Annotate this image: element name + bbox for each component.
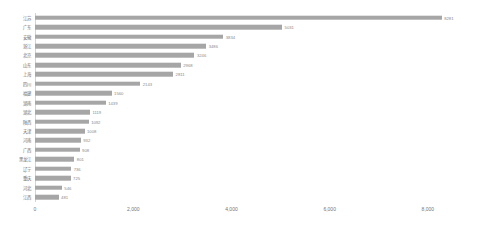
bar-value-label: 5031 (282, 25, 294, 30)
bar (35, 185, 62, 190)
bar-row: 山东2968 (35, 60, 477, 69)
bar-row: 广西908 (35, 145, 477, 154)
bar-row: 河南932 (35, 136, 477, 145)
bar-value-label: 3486 (206, 44, 218, 49)
bar-row: 辽宁736 (35, 164, 477, 173)
bar (35, 166, 71, 171)
bar (35, 25, 282, 30)
bar (35, 100, 106, 105)
category-label: 江苏 (23, 15, 31, 20)
bar-row: 北京3246 (35, 51, 477, 60)
category-label: 山东 (23, 62, 31, 67)
bar-row: 四川2143 (35, 79, 477, 88)
bar-value-label: 1092 (89, 119, 101, 124)
bar-row: 黑龙江801 (35, 155, 477, 164)
bar-value-label: 546 (62, 185, 72, 190)
category-label: 辽宁 (23, 166, 31, 171)
bar-row: 上海2811 (35, 70, 477, 79)
bar-value-label: 2811 (173, 72, 185, 77)
bar-row: 江西481 (35, 192, 477, 201)
bar (35, 34, 223, 39)
bar (35, 81, 140, 86)
x-tick-label: 2,000 (127, 206, 140, 212)
bar-row: 湖南1439 (35, 98, 477, 107)
bar (35, 119, 89, 124)
bar-value-label: 1119 (90, 110, 101, 115)
bar (35, 195, 59, 200)
category-label: 上海 (23, 72, 31, 77)
bar (35, 129, 85, 134)
bar-value-label: 1439 (106, 100, 118, 105)
category-label: 北京 (23, 53, 31, 58)
category-label: 广东 (23, 25, 31, 30)
category-label: 湖北 (23, 110, 31, 115)
category-label: 天津 (23, 128, 31, 133)
bar-row: 福建1560 (35, 89, 477, 98)
category-label: 江西 (23, 195, 31, 200)
bar-value-label: 908 (80, 147, 90, 152)
bar-value-label: 481 (59, 195, 69, 200)
x-tick-label: 0 (34, 206, 37, 212)
bar-row: 重庆725 (35, 173, 477, 182)
bar-value-label: 725 (71, 176, 81, 181)
category-label: 浙江 (23, 44, 31, 49)
category-label: 黑龙江 (19, 157, 31, 162)
bar-value-label: 932 (81, 138, 91, 143)
category-label: 河北 (23, 185, 31, 190)
category-label: 重庆 (23, 176, 31, 181)
bar (35, 72, 173, 77)
category-label: 广西 (23, 147, 31, 152)
bar (35, 138, 81, 143)
bar-value-label: 2143 (140, 81, 152, 86)
bar (35, 148, 80, 153)
bar-value-label: 3246 (194, 53, 206, 58)
bar (35, 157, 74, 162)
bar-row: 湖北1119 (35, 107, 477, 116)
x-tick-label: 8,000 (422, 206, 435, 212)
x-tick-label: 6,000 (323, 206, 336, 212)
bar (35, 110, 90, 115)
bar-row: 天津1008 (35, 126, 477, 135)
category-label: 河南 (23, 138, 31, 143)
category-label: 四川 (23, 81, 31, 86)
bar (35, 15, 442, 20)
category-label: 安徽 (23, 34, 31, 39)
category-label: 湖南 (23, 100, 31, 105)
x-axis: 02,0004,0006,0008,000 (35, 202, 477, 218)
bar-value-label: 1008 (85, 128, 97, 133)
bar (35, 63, 181, 68)
bar-row: 陕西1092 (35, 117, 477, 126)
bar-rows: 江苏8281广东5031安徽3834浙江3486北京3246山东2968上海28… (35, 13, 477, 202)
bar-value-label: 736 (71, 166, 81, 171)
category-label: 福建 (23, 91, 31, 96)
bar (35, 176, 71, 181)
bar (35, 44, 206, 49)
bar-row: 浙江3486 (35, 41, 477, 50)
bar-value-label: 8281 (442, 15, 454, 20)
bar-row: 江苏8281 (35, 13, 477, 22)
bar-chart: 江苏8281广东5031安徽3834浙江3486北京3246山东2968上海28… (0, 0, 487, 228)
bar-row: 河北546 (35, 183, 477, 192)
category-label: 陕西 (23, 119, 31, 124)
bar-value-label: 2968 (181, 62, 193, 67)
bar-row: 广东5031 (35, 22, 477, 31)
bar (35, 91, 112, 96)
bar-value-label: 1560 (112, 91, 124, 96)
bar-value-label: 801 (74, 157, 84, 162)
bar-value-label: 3834 (223, 34, 235, 39)
x-tick-label: 4,000 (225, 206, 238, 212)
bar-row: 安徽3834 (35, 32, 477, 41)
bar (35, 53, 194, 58)
